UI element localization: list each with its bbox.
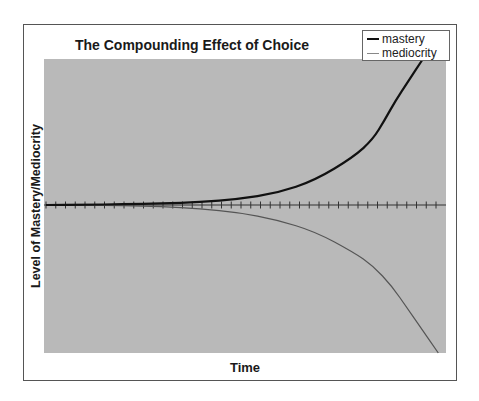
- legend-label: mediocrity: [382, 46, 437, 60]
- legend-swatch-mediocrity: [367, 53, 379, 54]
- chart-title: The Compounding Effect of Choice: [44, 37, 340, 53]
- legend-swatch-mastery: [367, 38, 379, 40]
- x-axis-label: Time: [44, 360, 446, 375]
- legend: mastery mediocrity: [362, 30, 450, 61]
- legend-item-mediocrity: mediocrity: [363, 46, 449, 60]
- legend-item-mastery: mastery: [363, 32, 449, 46]
- legend-label: mastery: [382, 32, 425, 46]
- y-axis-label: Level of Mastery/Mediocrity: [29, 124, 43, 288]
